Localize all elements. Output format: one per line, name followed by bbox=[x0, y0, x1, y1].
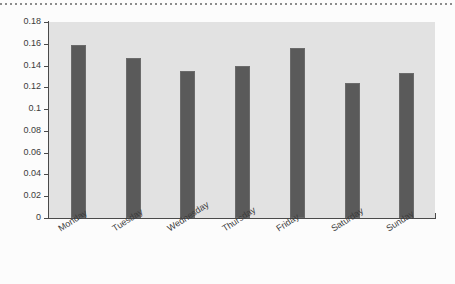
bar-thursday bbox=[235, 66, 250, 218]
bar-saturday bbox=[345, 83, 360, 218]
y-axis-tick-label: 0.18 bbox=[0, 17, 41, 26]
y-axis-tick bbox=[44, 153, 49, 154]
bar-sunday bbox=[399, 73, 414, 218]
bar-monday bbox=[71, 45, 86, 218]
y-axis-tick-label: 0.12 bbox=[0, 82, 41, 91]
dotted-divider-line bbox=[0, 3, 455, 5]
y-axis-tick bbox=[44, 196, 49, 197]
y-axis-tick bbox=[44, 218, 49, 219]
y-axis-tick-label: 0.1 bbox=[0, 104, 41, 113]
y-axis-tick bbox=[44, 109, 49, 110]
bar-friday bbox=[290, 48, 305, 218]
y-axis-tick-label: 0 bbox=[0, 213, 41, 222]
y-axis-tick bbox=[44, 66, 49, 67]
y-axis-tick-label: 0.16 bbox=[0, 39, 41, 48]
y-axis-tick-label: 0.08 bbox=[0, 126, 41, 135]
x-axis-end-tick bbox=[435, 213, 436, 219]
y-axis-tick bbox=[44, 174, 49, 175]
y-axis-tick bbox=[44, 131, 49, 132]
y-axis-line bbox=[48, 21, 49, 219]
bar-tuesday bbox=[126, 58, 141, 218]
chart-figure: 00.020.040.060.080.10.120.140.160.18 Mon… bbox=[0, 0, 455, 284]
y-axis-tick-label: 0.02 bbox=[0, 191, 41, 200]
y-axis-tick bbox=[44, 87, 49, 88]
y-axis-tick-label: 0.04 bbox=[0, 169, 41, 178]
y-axis-tick-label: 0.06 bbox=[0, 148, 41, 157]
bar-wednesday bbox=[180, 71, 195, 218]
y-axis-tick bbox=[44, 22, 49, 23]
y-axis-tick bbox=[44, 44, 49, 45]
y-axis-tick-label: 0.14 bbox=[0, 61, 41, 70]
